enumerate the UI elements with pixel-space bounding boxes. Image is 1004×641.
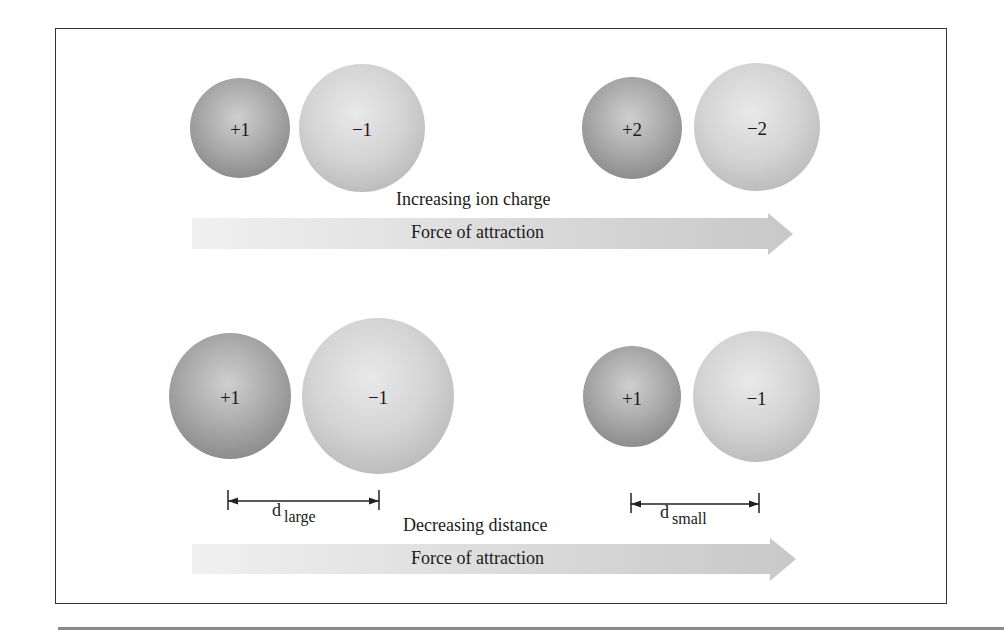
anion-minus1-large: −1 xyxy=(302,318,454,474)
ion-charge-label: −2 xyxy=(747,118,767,140)
ion-charge-label: −1 xyxy=(746,388,766,410)
ion-charge-label: +1 xyxy=(220,387,240,409)
ion-charge-label: −1 xyxy=(368,387,388,409)
trend-label-ion-charge: Increasing ion charge xyxy=(396,189,551,210)
arrow-label-force-top: Force of attraction xyxy=(411,222,544,243)
cation-plus2-top: +2 xyxy=(582,77,682,179)
anion-minus2-top: −2 xyxy=(694,63,820,191)
ion-charge-label: +1 xyxy=(230,119,250,141)
distance-large-label: dlarge xyxy=(272,500,316,521)
ion-charge-label: +1 xyxy=(622,388,642,410)
cation-plus1-small: +1 xyxy=(583,346,681,447)
cation-plus1-top: +1 xyxy=(190,78,290,178)
distance-small-label: dsmall xyxy=(660,502,707,523)
bottom-rule xyxy=(58,627,1004,630)
ion-charge-label: +2 xyxy=(622,119,642,141)
anion-minus1-small: −1 xyxy=(693,331,820,462)
anion-minus1-top: −1 xyxy=(299,64,425,192)
ion-charge-label: −1 xyxy=(352,119,372,141)
arrow-label-force-bottom: Force of attraction xyxy=(411,548,544,569)
trend-label-distance: Decreasing distance xyxy=(403,515,547,536)
cation-plus1-large: +1 xyxy=(169,333,291,459)
